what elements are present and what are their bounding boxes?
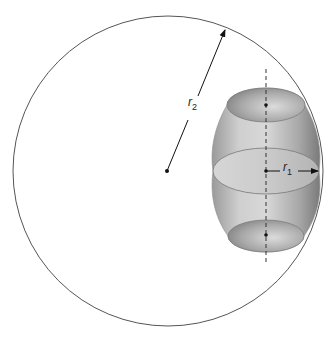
r2-arrow-upper xyxy=(198,30,225,96)
r2-arrow-lower xyxy=(167,120,188,171)
top-axis-point xyxy=(264,103,268,107)
bottom-axis-point xyxy=(264,233,268,237)
diagram-canvas: r2 r1 xyxy=(0,0,332,340)
r2-label: r2 xyxy=(188,95,197,112)
